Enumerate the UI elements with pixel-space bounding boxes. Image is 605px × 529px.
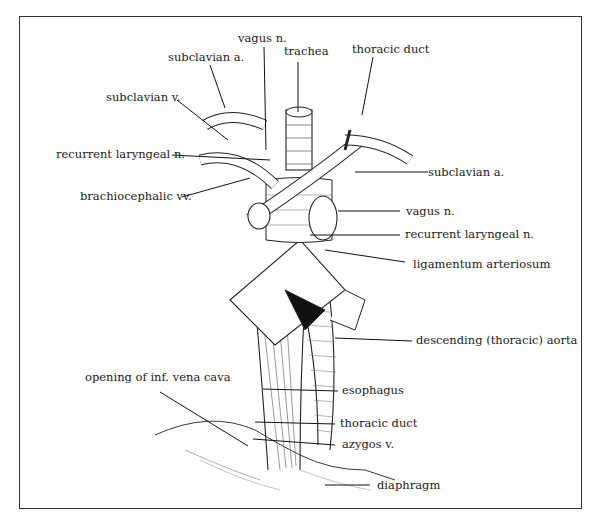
label-recurrent-laryngeal-right: recurrent laryngeal n. bbox=[405, 228, 534, 241]
label-subclavian-v: subclavian v. bbox=[106, 91, 181, 104]
label-ligamentum-arteriosum: ligamentum arteriosum bbox=[413, 258, 550, 271]
label-brachiocephalic-vv: brachiocephalic vv. bbox=[80, 190, 192, 203]
label-esophagus: esophagus bbox=[342, 384, 404, 397]
label-recurrent-laryngeal-left: recurrent laryngeal n. bbox=[56, 148, 185, 161]
label-thoracic-duct-top: thoracic duct bbox=[352, 43, 429, 56]
label-trachea: trachea bbox=[284, 45, 328, 58]
label-diaphragm: diaphragm bbox=[377, 479, 440, 492]
label-vagus-n-right: vagus n. bbox=[406, 205, 455, 218]
label-subclavian-a-left: subclavian a. bbox=[168, 51, 244, 64]
label-ivc-opening: opening of inf. vena cava bbox=[85, 371, 231, 384]
label-subclavian-a-right: subclavian a. bbox=[428, 166, 504, 179]
label-azygos-v: azygos v. bbox=[342, 438, 394, 451]
label-vagus-n-top: vagus n. bbox=[238, 32, 287, 45]
label-thoracic-duct-bottom: thoracic duct bbox=[340, 417, 417, 430]
label-descending-aorta: descending (thoracic) aorta bbox=[416, 334, 577, 347]
